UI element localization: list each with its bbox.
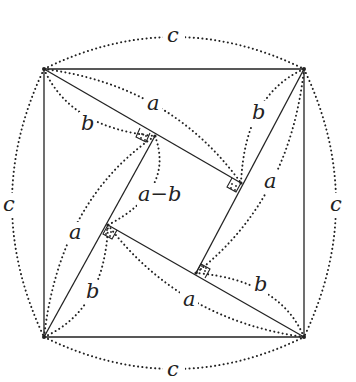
- label-c-right: c: [330, 192, 342, 216]
- right-angle-marker-right: [227, 178, 241, 192]
- label-a-left: a: [69, 220, 82, 244]
- label-b-left: b: [86, 279, 99, 303]
- label-a-right: a: [264, 169, 277, 193]
- label-a-top: a: [147, 91, 160, 115]
- label-c-top: c: [167, 23, 179, 47]
- vertex-top-right: [302, 67, 306, 71]
- label-a-bottom: a: [183, 287, 196, 311]
- vertex-top-left: [42, 67, 46, 71]
- vertex-inner-right: [239, 181, 242, 184]
- vertex-inner-top: [153, 134, 156, 137]
- triangle-line-left: [44, 136, 155, 337]
- vertex-bottom-right: [302, 335, 306, 339]
- label-b-bottom: b: [254, 272, 267, 296]
- vertex-bottom-left: [42, 335, 46, 339]
- triangle-line-top: [44, 69, 241, 183]
- label-b-top: b: [81, 111, 94, 135]
- label-c-left: c: [3, 192, 15, 216]
- vertex-inner-left: [106, 223, 109, 226]
- label-b-right: b: [252, 100, 265, 124]
- label-c-bottom: c: [167, 357, 179, 381]
- triangle-line-right: [196, 69, 304, 273]
- vertex-inner-bottom: [194, 271, 197, 274]
- arc-a-minus-b: [108, 136, 160, 225]
- triangle-line-bottom: [108, 225, 304, 337]
- pythagorean-diagram: c c c c a b b a a b a b a−b: [0, 0, 356, 382]
- label-a-minus-b: a−b: [138, 182, 182, 206]
